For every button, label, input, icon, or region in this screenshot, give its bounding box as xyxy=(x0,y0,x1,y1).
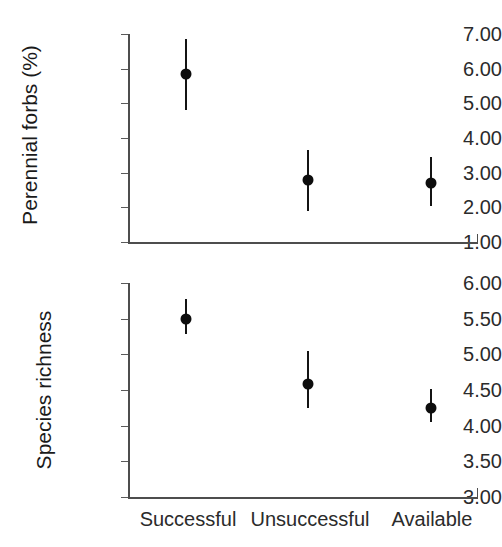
y-axis-label-bottom: Species richness xyxy=(32,282,56,498)
x-tick-label-unsuccessful: Unsuccessful xyxy=(251,509,370,529)
x-axis-spine xyxy=(128,497,478,499)
y-tickmark xyxy=(121,426,128,427)
data-point-marker xyxy=(426,402,437,413)
x-axis-right-cap xyxy=(477,488,479,498)
x-tick-label-available: Available xyxy=(392,509,473,529)
y-tickmark xyxy=(121,461,128,462)
data-point-marker xyxy=(181,313,192,324)
data-point-marker xyxy=(303,379,314,390)
y-tickmark xyxy=(121,390,128,391)
x-tick-label-successful: Successful xyxy=(140,509,237,529)
panel-species-richness: Species richness 6.00 5.50 5.00 4.50 4.0… xyxy=(0,0,502,547)
y-tickmark xyxy=(121,497,128,498)
y-axis-spine xyxy=(128,283,130,497)
y-tickmark xyxy=(121,283,128,284)
plot-area-bottom xyxy=(128,283,478,500)
y-tickmark xyxy=(121,354,128,355)
figure-container: Perennial forbs (%) 7.00 6.00 5.00 4.00 … xyxy=(0,0,502,547)
y-tickmark xyxy=(121,319,128,320)
